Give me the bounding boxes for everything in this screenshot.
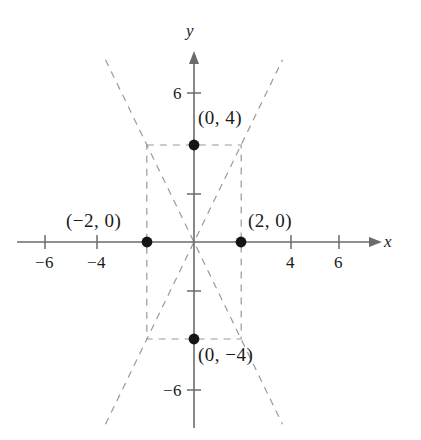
graph-canvas [0,0,421,440]
x-tick-label-4: 4 [286,254,295,271]
y-axis-arrowhead [189,51,199,64]
point-0--4[interactable] [189,334,200,345]
y-axis-label: y [186,22,194,39]
point-label--2-0: (−2, 0) [66,211,121,230]
x-tick-label--6: −6 [35,254,54,271]
point-2-0[interactable] [236,237,247,248]
x-tick-label--4: −4 [87,254,106,271]
coordinate-plane-figure: x y −6 −4 4 6 6 −6 (0, 4) (−2, 0) (2, 0)… [0,0,421,440]
x-axis-label: x [384,233,392,250]
point--2-0[interactable] [142,237,153,248]
point-label-0-4: (0, 4) [198,108,242,127]
y-tick-label--6: −6 [163,382,182,399]
point-label-2-0: (2, 0) [248,211,292,230]
x-axis-arrowhead [369,237,382,247]
point-label-0--4: (0, −4) [198,345,253,364]
y-tick-label-6: 6 [173,85,182,102]
point-0-4[interactable] [189,140,200,151]
x-tick-label-6: 6 [334,254,343,271]
